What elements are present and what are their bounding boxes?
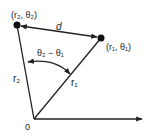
angle-arc xyxy=(28,61,70,74)
distance-label: d xyxy=(56,21,62,32)
r1-label: r₁ xyxy=(71,77,78,88)
point-2-label: (r₂, θ₂) xyxy=(11,10,37,20)
angle-label: θ₂ − θ₁ xyxy=(37,48,64,58)
point-1-label: (r₁, θ₁) xyxy=(106,42,131,52)
r2-line xyxy=(17,25,34,119)
point-2-dot xyxy=(14,22,21,29)
point-1-dot xyxy=(98,35,105,42)
r2-label: r₂ xyxy=(13,73,20,84)
origin-label: 0 xyxy=(25,122,30,132)
polar-distance-diagram: (r₂, θ₂) (r₁, θ₁) d θ₂ − θ₁ r₂ r₁ 0 xyxy=(0,0,146,139)
